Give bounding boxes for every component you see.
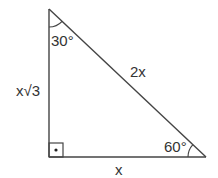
horizontal-leg-label: x — [115, 161, 123, 178]
angle-arc-60 — [188, 145, 193, 157]
angle-arc-30 — [49, 21, 62, 27]
bottom-right-angle-label: 60° — [164, 138, 187, 155]
vertical-leg-label: x√3 — [16, 82, 40, 99]
hypotenuse-label: 2x — [130, 63, 146, 80]
triangle-diagram: 30° 60° 2x x√3 x — [0, 0, 218, 178]
right-angle-dot — [54, 148, 57, 151]
top-angle-label: 30° — [51, 32, 74, 49]
